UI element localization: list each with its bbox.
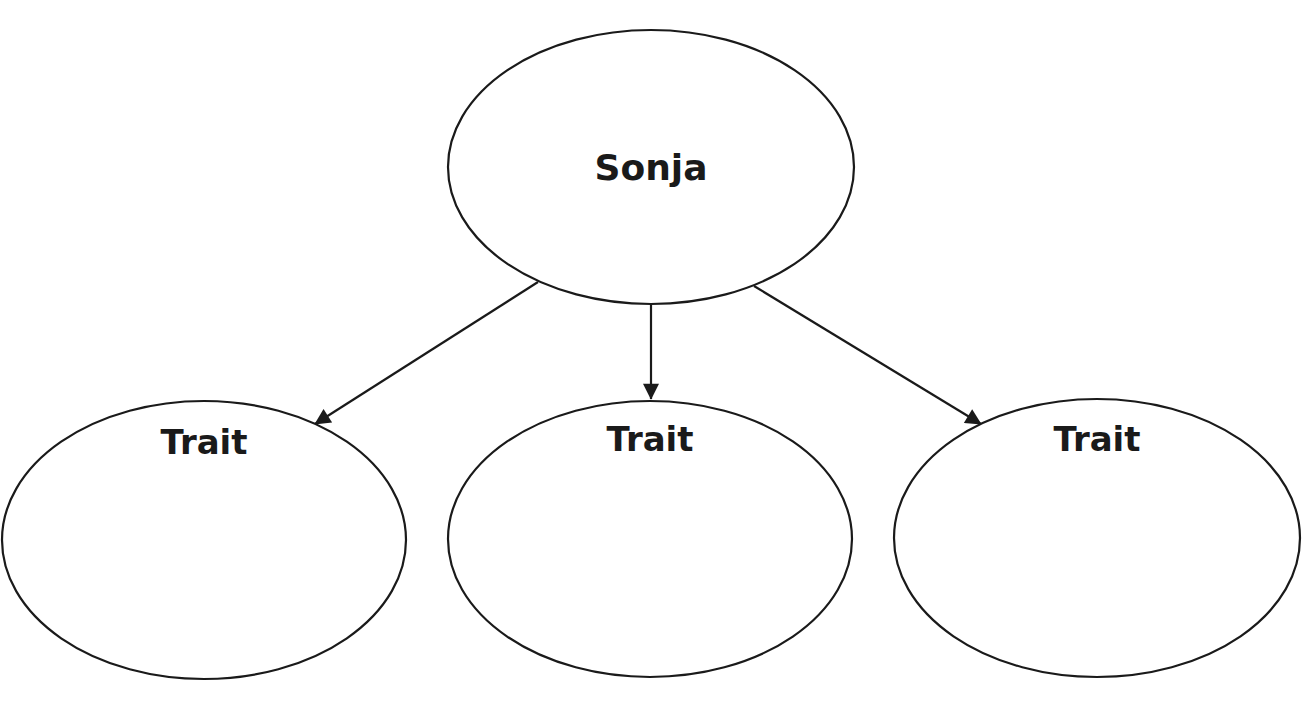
trait-node-3: Trait [894,399,1300,677]
arrow-to-trait-1 [315,282,538,424]
trait-node-1: Trait [2,401,406,679]
trait-node-label: Trait [1053,419,1140,459]
trait-node-2: Trait [448,401,852,677]
trait-web-diagram: Sonja Trait Trait Trait [0,0,1309,701]
arrow-to-trait-3 [754,286,981,424]
trait-node-label: Trait [606,419,693,459]
trait-node-label: Trait [160,422,247,462]
center-node-label: Sonja [595,147,708,188]
center-node-sonja: Sonja [448,30,854,304]
